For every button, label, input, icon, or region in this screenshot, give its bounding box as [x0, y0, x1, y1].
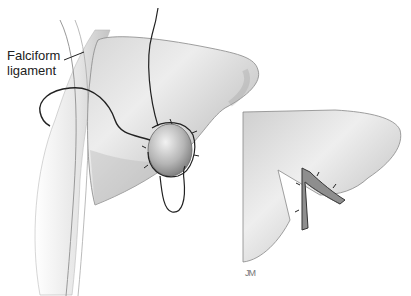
- label-line-1: Falciform: [7, 48, 60, 63]
- falciform-ligament-label: Falciform ligament: [7, 48, 60, 78]
- annotation-leader: [0, 0, 411, 296]
- label-line-2: ligament: [7, 63, 60, 78]
- artist-signature: JM: [245, 268, 255, 278]
